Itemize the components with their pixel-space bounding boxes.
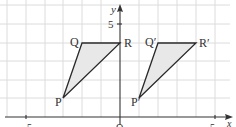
x-tick-neg5-label: 5	[27, 122, 32, 127]
y-tick-5-label: 5	[108, 18, 114, 30]
origin-label: O	[116, 122, 123, 127]
vertex-label-q-prime: Q′	[145, 35, 157, 49]
vertex-label-r: R	[124, 36, 132, 50]
x-tick-pos5-label: 5	[210, 122, 215, 127]
axes	[5, 8, 229, 125]
vertex-label-p-prime: P′	[131, 95, 141, 109]
triangle-pqr	[63, 43, 120, 98]
triangle-p-q-r-prime	[139, 43, 196, 98]
x-axis-label: x	[226, 118, 232, 127]
grid-lines	[0, 0, 230, 117]
vertex-label-p: P	[55, 95, 62, 109]
vertex-label-r-prime: R′	[199, 36, 210, 50]
vertex-label-q: Q	[70, 35, 79, 49]
coordinate-grid-diagram: y x 5 5 5 O Q R P Q′ R′ P′	[0, 0, 236, 127]
y-axis-label: y	[110, 3, 116, 15]
